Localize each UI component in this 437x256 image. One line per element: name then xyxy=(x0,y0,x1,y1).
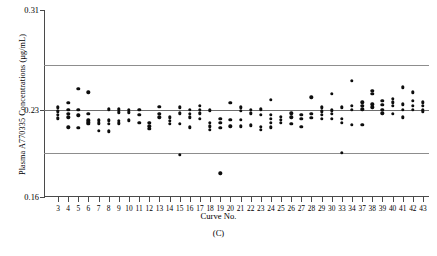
data-point xyxy=(360,123,363,126)
data-point xyxy=(127,119,130,122)
data-point xyxy=(77,126,80,129)
x-tick-3 xyxy=(58,196,59,202)
x-tick-24 xyxy=(271,196,272,202)
data-point xyxy=(350,79,353,82)
x-tick-33 xyxy=(342,196,343,202)
y-tick-label-0.16: 0.16 xyxy=(24,193,39,202)
plot-area: 0.160.230.31 345678910111213141516171819… xyxy=(44,10,429,197)
data-point xyxy=(259,128,262,131)
data-point xyxy=(87,91,90,94)
data-point xyxy=(239,118,242,121)
data-point xyxy=(158,116,161,119)
data-point xyxy=(300,125,303,128)
y-tick-0.16 xyxy=(40,197,45,198)
data-point xyxy=(259,113,262,116)
data-point xyxy=(320,117,323,120)
x-tick-12 xyxy=(149,196,150,202)
x-tick-18 xyxy=(210,196,211,202)
data-point xyxy=(188,125,191,128)
data-point xyxy=(289,122,292,125)
data-point xyxy=(340,121,343,124)
data-point xyxy=(310,116,313,119)
data-point xyxy=(219,121,222,124)
data-point xyxy=(137,113,140,116)
x-tick-13 xyxy=(159,196,160,202)
data-point xyxy=(77,114,80,117)
x-tick-7 xyxy=(99,196,100,202)
x-tick-27 xyxy=(301,196,302,202)
data-point xyxy=(411,108,414,111)
x-tick-28 xyxy=(311,196,312,202)
x-tick-11 xyxy=(139,196,140,202)
data-point xyxy=(239,109,242,112)
y-tick-0.31 xyxy=(40,10,45,11)
data-point xyxy=(188,116,191,119)
data-point xyxy=(178,106,181,109)
x-tick-21 xyxy=(241,196,242,202)
data-point xyxy=(208,128,211,131)
x-tick-16 xyxy=(190,196,191,202)
data-point xyxy=(269,113,272,116)
x-tick-17 xyxy=(200,196,201,202)
data-point xyxy=(269,126,272,129)
x-tick-29 xyxy=(322,196,323,202)
upper-control-limit xyxy=(44,65,429,66)
data-point xyxy=(66,116,69,119)
data-point xyxy=(401,116,404,119)
data-point xyxy=(66,108,69,111)
data-point xyxy=(117,111,120,114)
data-point xyxy=(137,108,140,111)
data-point xyxy=(219,172,222,175)
data-point xyxy=(350,108,353,111)
x-tick-20 xyxy=(230,196,231,202)
lower-control-limit xyxy=(44,153,429,154)
data-point xyxy=(330,117,333,120)
data-point xyxy=(401,86,404,89)
x-tick-26 xyxy=(291,196,292,202)
data-point xyxy=(310,96,313,99)
x-tick-5 xyxy=(78,196,79,202)
data-point xyxy=(178,112,181,115)
x-tick-6 xyxy=(88,196,89,202)
x-tick-25 xyxy=(281,196,282,202)
x-tick-8 xyxy=(109,196,110,202)
data-point xyxy=(208,109,211,112)
data-point xyxy=(219,126,222,129)
data-point xyxy=(198,117,201,120)
data-point xyxy=(269,98,272,101)
data-point xyxy=(249,124,252,127)
data-point xyxy=(289,116,292,119)
data-point xyxy=(117,122,120,125)
x-tick-41 xyxy=(403,196,404,202)
data-point xyxy=(279,121,282,124)
data-point xyxy=(239,124,242,127)
data-point xyxy=(97,129,100,132)
data-point xyxy=(391,104,394,107)
data-point xyxy=(381,103,384,106)
data-point xyxy=(107,122,110,125)
x-tick-22 xyxy=(251,196,252,202)
data-point xyxy=(148,127,151,130)
data-point xyxy=(320,113,323,116)
x-tick-23 xyxy=(261,196,262,202)
panel-label: (C) xyxy=(0,228,437,238)
y-tick-label-0.23: 0.23 xyxy=(24,105,39,114)
data-point xyxy=(300,117,303,120)
data-point xyxy=(87,122,90,125)
data-point xyxy=(66,125,69,128)
data-point xyxy=(229,124,232,127)
data-point xyxy=(178,122,181,125)
x-tick-4 xyxy=(68,196,69,202)
data-point xyxy=(87,112,90,115)
y-tick-label-0.31: 0.31 xyxy=(24,6,39,15)
data-point xyxy=(391,112,394,115)
data-point xyxy=(56,117,59,120)
x-tick-30 xyxy=(332,196,333,202)
data-point xyxy=(371,92,374,95)
data-point xyxy=(137,121,140,124)
data-point xyxy=(330,92,333,95)
data-point xyxy=(350,123,353,126)
data-point xyxy=(107,129,110,132)
data-point xyxy=(127,111,130,114)
data-point xyxy=(401,108,404,111)
